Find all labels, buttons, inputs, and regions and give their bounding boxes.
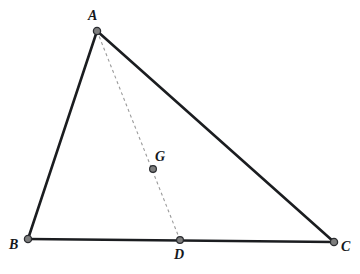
point-b <box>24 235 31 242</box>
vertex-label-c: C <box>341 240 350 254</box>
geometry-canvas <box>0 0 360 274</box>
point-d <box>177 237 184 244</box>
vertex-label-g: G <box>155 150 165 164</box>
side-ab <box>28 31 97 239</box>
vertex-label-a: A <box>88 9 97 23</box>
median-ad <box>97 31 180 240</box>
side-ac <box>97 31 334 242</box>
geometry-figure: A B C D G <box>0 0 360 274</box>
vertex-label-d: D <box>174 248 184 262</box>
vertex-label-b: B <box>9 238 18 252</box>
point-g <box>150 166 157 173</box>
point-c <box>330 238 337 245</box>
point-a <box>93 27 100 34</box>
